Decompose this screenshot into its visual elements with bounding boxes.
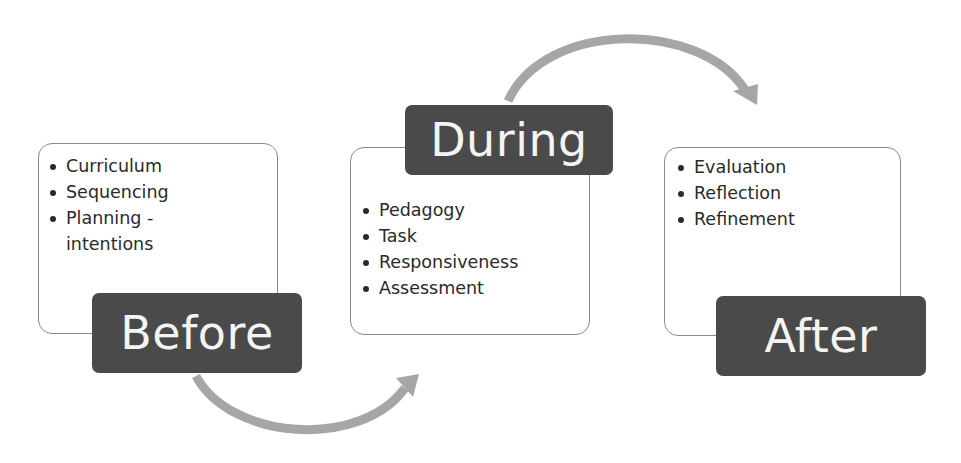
stage-during-list: Pedagogy Task Responsiveness Assessment [359,197,518,301]
list-item: Task [359,223,518,249]
stage-after-list: Evaluation Reflection Refinement [674,154,795,232]
arrow-during-to-after [508,39,758,105]
list-item: Assessment [359,275,518,301]
list-item: Refinement [674,206,795,232]
list-item: Pedagogy [359,197,518,223]
stage-during-card: Pedagogy Task Responsiveness Assessment [350,147,590,335]
stage-before-list: Curriculum Sequencing Planning - intenti… [46,153,169,257]
list-item: Curriculum [46,153,169,179]
arrow-before-to-during [196,374,419,430]
list-item: Evaluation [674,154,795,180]
stage-before-label: Before [92,293,302,373]
list-item: Responsiveness [359,249,518,275]
list-item: Sequencing [46,179,169,205]
list-item: Reflection [674,180,795,206]
stage-after-label: After [716,296,926,376]
stage-during-label: During [405,105,613,175]
list-item: Planning - intentions [46,205,169,257]
